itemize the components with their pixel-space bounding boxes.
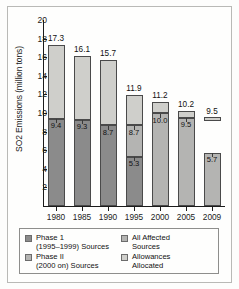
segment-tick-stub [186,118,187,122]
y-tick-mark [43,187,47,188]
bar-segment-phase1 [74,120,91,206]
bar-total-label: 15.7 [100,49,117,58]
bar-column[interactable]: 10.011.2 [152,6,169,206]
bar-column[interactable]: 8.715.7 [100,6,117,206]
legend-swatch-allowance [121,254,128,261]
allowances-floating-box [204,117,221,121]
bar-column[interactable]: 9.417.3 [48,6,65,206]
bar-segment-allowance [74,56,91,119]
legend-item[interactable]: Phase 1(1995–1999) Sources [25,233,121,252]
y-tick-mark [43,94,47,95]
legend-item[interactable]: Phase II(2000 on) Sources [25,252,121,271]
y-tick-mark [43,132,47,133]
segment-tick-stub [134,157,135,161]
legend-item[interactable]: All AffectedSources [121,233,215,252]
bar-segment-allowance [178,111,195,118]
y-tick-mark [43,76,47,77]
x-tick-mark [212,207,213,211]
segment-tick-stub [212,153,213,157]
bar-column[interactable]: 9.316.1 [74,6,91,206]
legend-label: All AffectedSources [132,233,170,251]
bar-total-label: 9.5 [204,107,221,116]
legend-swatch-affected [121,235,128,242]
bar-segment-affected [178,118,195,206]
x-tick-mark [160,207,161,211]
bar-segment-affected [152,113,169,206]
x-tick-label: 2009 [197,212,227,222]
bar-total-label: 11.2 [152,91,169,100]
plot-area: SO2 Emissions (million tons) 24681012141… [7,6,232,221]
legend-swatch-phase2 [25,254,32,261]
bar-segment-allowance [100,60,117,125]
y-tick-mark [43,150,47,151]
segment-tick-stub [82,120,83,124]
bar-segment-phase1 [48,119,65,206]
x-tick-mark [56,207,57,211]
so2-emissions-figure: SO2 Emissions (million tons) 24681012141… [0,0,239,289]
bar-column[interactable]: 5.79.5 [204,6,221,206]
x-tick-mark [82,207,83,211]
y-tick-mark [43,113,47,114]
x-tick-mark [134,207,135,211]
legend-item[interactable]: AllowancesAllocated [121,252,215,271]
x-tick-mark [108,207,109,211]
bar-column[interactable]: 9.510.2 [178,6,195,206]
legend-label: AllowancesAllocated [132,252,170,270]
bar-total-label: 10.2 [178,100,195,109]
segment-tick-stub [56,119,57,123]
legend-label: Phase II(2000 on) Sources [36,252,98,270]
bar-segment-phase1 [100,125,117,206]
bar-total-label: 16.1 [74,45,91,54]
x-tick-mark [186,207,187,211]
legend-swatch-phase1 [25,235,32,242]
bar-segment-allowance [126,95,143,125]
segment-tick-stub [108,126,109,130]
bar-column[interactable]: 5.38.711.9 [126,6,143,206]
segment-tick-stub [160,114,161,118]
y-tick-mark [43,39,47,40]
y-tick-label: 20 [17,15,47,25]
bar-segment-allowance [48,45,65,118]
segment-tick-stub [134,126,135,130]
bar-segment-allowance [152,102,169,113]
y-tick-mark [43,57,47,58]
bar-total-label: 11.9 [126,84,143,93]
legend-label: Phase 1(1995–1999) Sources [36,233,109,251]
chart-legend: Phase 1(1995–1999) SourcesAll AffectedSo… [19,228,219,274]
bar-total-label: 17.3 [48,34,65,43]
y-tick-mark [43,169,47,170]
